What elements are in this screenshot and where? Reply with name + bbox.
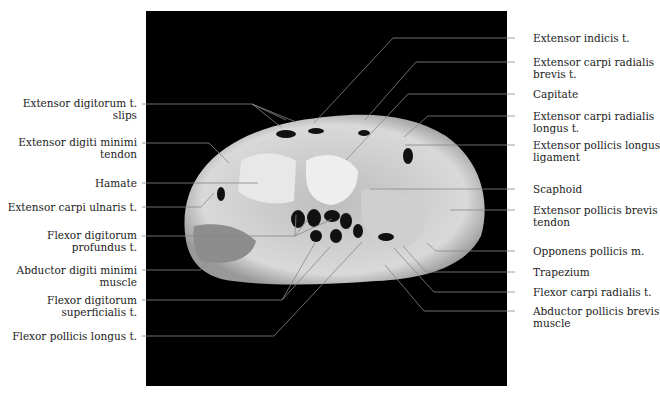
label-flexor-carpi-radialis: Flexor carpi radialis t.	[533, 286, 652, 298]
label-capitate: Capitate	[533, 88, 578, 100]
label-extensor-pollicis-longus: Extensor pollicis longusligament	[533, 139, 660, 163]
label-abductor-pollicis-brevis: Abductor pollicis brevismuscle	[533, 305, 659, 329]
label-flexor-pollicis-longus: Flexor pollicis longus t.	[12, 330, 137, 342]
label-extensor-carpi-radialis-brevis: Extensor carpi radialisbrevis t.	[533, 56, 654, 80]
label-extensor-digitorum-slips: Extensor digitorum t.slips	[23, 97, 137, 121]
label-extensor-digiti-minimi: Extensor digiti minimitendon	[18, 136, 137, 160]
label-extensor-indicis: Extensor indicis t.	[533, 32, 630, 44]
label-extensor-pollicis-brevis: Extensor pollicis brevistendon	[533, 204, 658, 228]
label-extensor-carpi-radialis-longus: Extensor carpi radialislongus t.	[533, 110, 654, 134]
label-flexor-digitorum-superficialis: Flexor digitorumsuperficialis t.	[47, 294, 137, 318]
label-scaphoid: Scaphoid	[533, 183, 582, 195]
label-hamate: Hamate	[95, 177, 137, 189]
label-trapezium: Trapezium	[533, 266, 590, 278]
label-abductor-digiti-minimi: Abductor digiti minimimuscle	[17, 264, 137, 288]
label-extensor-carpi-ulnaris: Extensor carpi ulnaris t.	[8, 201, 137, 213]
label-flexor-digitorum-profundus: Flexor digitorumprofundus t.	[47, 229, 137, 253]
label-opponens-pollicis: Opponens pollicis m.	[533, 245, 644, 257]
